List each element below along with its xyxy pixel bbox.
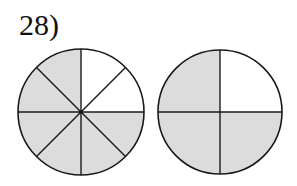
- right-circle-unshaded-quarter: [220, 50, 282, 112]
- fraction-circles: [0, 0, 297, 186]
- right-circle-quarters: [158, 50, 282, 174]
- left-circle-eighths: [18, 49, 144, 175]
